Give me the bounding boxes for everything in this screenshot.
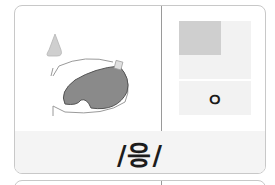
card-divider — [161, 181, 162, 185]
empty-cell — [179, 55, 251, 79]
jamo-cell: ㅇ — [179, 81, 251, 115]
syllable-block-grid: ㅇ — [179, 21, 251, 116]
tongue-icon — [63, 60, 128, 108]
phoneme-label: /응/ — [117, 135, 163, 172]
nose-icon — [47, 34, 62, 56]
phoneme-card: ㅇ /응/ — [14, 5, 266, 174]
jamo-label: ㅇ — [207, 86, 223, 111]
next-phoneme-card — [14, 180, 266, 185]
empty-cell — [221, 21, 251, 55]
highlight-cell — [179, 21, 221, 55]
card-divider — [161, 6, 162, 131]
phoneme-band: /응/ — [15, 131, 265, 174]
articulation-diagram — [25, 16, 155, 126]
